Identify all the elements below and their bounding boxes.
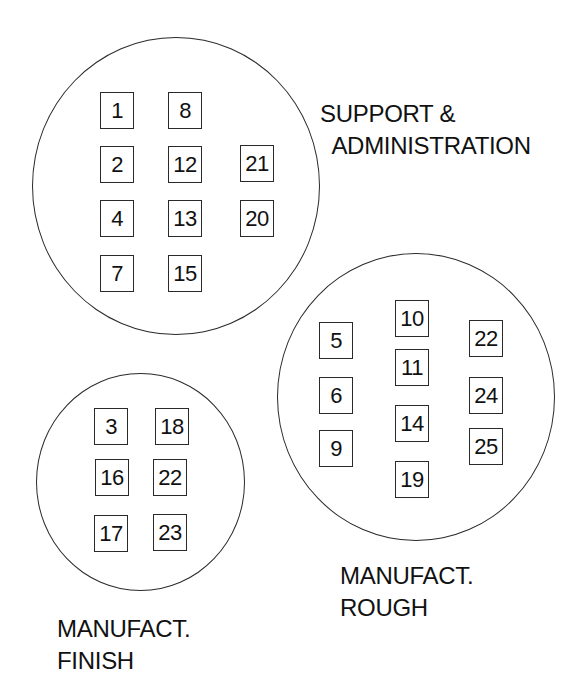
item-box: 20	[240, 200, 274, 237]
item-box: 8	[168, 92, 202, 129]
item-box: 14	[395, 405, 429, 442]
item-box: 19	[395, 461, 429, 498]
cluster-label-line: MANUFACT.	[57, 613, 190, 645]
item-box: 9	[319, 430, 353, 467]
cluster-label-line: SUPPORT &	[320, 98, 531, 130]
item-box: 3	[94, 408, 128, 445]
item-box: 12	[168, 146, 202, 183]
cluster-label-line: ADMINISTRATION	[320, 130, 531, 162]
item-box: 10	[395, 300, 429, 337]
cluster-circle-manufact-finish	[36, 373, 245, 591]
cluster-label-line: FINISH	[57, 645, 190, 677]
cluster-label-support-administration: SUPPORT & ADMINISTRATION	[320, 98, 531, 162]
item-box: 22	[469, 320, 503, 357]
item-box: 2	[100, 146, 134, 183]
cluster-label-manufact-rough: MANUFACT.ROUGH	[340, 560, 473, 624]
item-box: 16	[95, 459, 129, 496]
item-box: 13	[168, 200, 202, 237]
item-box: 1	[100, 92, 134, 129]
cluster-label-line: ROUGH	[340, 592, 473, 624]
item-box: 6	[319, 377, 353, 414]
item-box: 17	[94, 515, 128, 552]
item-box: 5	[319, 322, 353, 359]
item-box: 7	[100, 255, 134, 292]
cluster-diagram: 182122141320715SUPPORT & ADMINISTRATION1…	[0, 0, 588, 698]
item-box: 21	[240, 145, 274, 182]
item-box: 4	[100, 200, 134, 237]
cluster-label-manufact-finish: MANUFACT.FINISH	[57, 613, 190, 677]
item-box: 22	[153, 459, 187, 496]
item-box: 24	[469, 377, 503, 414]
cluster-label-line: MANUFACT.	[340, 560, 473, 592]
item-box: 18	[155, 408, 189, 445]
item-box: 23	[153, 514, 187, 551]
item-box: 25	[469, 428, 503, 465]
item-box: 15	[168, 255, 202, 292]
item-box: 11	[395, 349, 429, 386]
